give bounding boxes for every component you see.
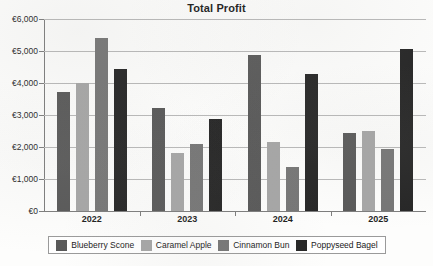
chart-title: Total Profit <box>0 2 433 14</box>
legend-item-blueberry-scone[interactable]: Blueberry Scone <box>56 240 134 251</box>
y-axis-tick <box>39 211 44 212</box>
legend-label: Caramel Apple <box>156 240 212 250</box>
bar <box>343 133 356 211</box>
bar <box>171 153 184 211</box>
y-axis-tick-labels: €0€1,000€2,000€3,000€4,000€5,000€6,000 <box>0 19 38 211</box>
y-axis-tick <box>39 83 44 84</box>
legend-swatch-icon <box>141 240 152 251</box>
y-axis-tick <box>39 179 44 180</box>
y-axis-tick-label: €5,000 <box>12 46 38 56</box>
bars-layer <box>44 19 426 211</box>
y-axis-tick-label: €3,000 <box>12 110 38 120</box>
x-axis-tick-label: 2022 <box>82 214 102 224</box>
y-axis-tick-label: €0 <box>29 206 38 216</box>
y-axis-tick <box>39 51 44 52</box>
y-axis-tick-label: €2,000 <box>12 142 38 152</box>
y-axis-tick <box>39 147 44 148</box>
bar <box>267 142 280 211</box>
legend-swatch-icon <box>218 240 229 251</box>
y-axis-tick <box>39 115 44 116</box>
plot-area <box>44 19 426 211</box>
legend-item-poppyseed-bagel[interactable]: Poppyseed Bagel <box>296 240 378 251</box>
bar <box>57 92 70 211</box>
bar <box>381 149 394 211</box>
bar-chart: Total Profit €0€1,000€2,000€3,000€4,000€… <box>0 0 433 266</box>
x-axis-tick-label: 2023 <box>177 214 197 224</box>
bar <box>209 119 222 211</box>
legend-label: Poppyseed Bagel <box>311 240 378 250</box>
legend-label: Blueberry Scone <box>71 240 134 250</box>
x-axis-tick-label: 2025 <box>368 214 388 224</box>
y-axis-tick-label: €4,000 <box>12 78 38 88</box>
bar <box>305 74 318 211</box>
x-axis-tick-labels: 2022202320242025 <box>44 214 426 228</box>
bar <box>286 167 299 211</box>
legend-item-cinnamon-bun[interactable]: Cinnamon Bun <box>218 240 289 251</box>
bar <box>152 108 165 211</box>
bar <box>76 83 89 211</box>
legend-swatch-icon <box>56 240 67 251</box>
y-axis-tick <box>39 19 44 20</box>
bar <box>95 38 108 211</box>
bar <box>248 55 261 211</box>
bar <box>400 49 413 211</box>
bar <box>190 144 203 211</box>
legend-label: Cinnamon Bun <box>233 240 289 250</box>
y-axis-tick-label: €6,000 <box>12 14 38 24</box>
y-axis-tick-label: €1,000 <box>12 174 38 184</box>
legend-swatch-icon <box>296 240 307 251</box>
x-axis-tick-label: 2024 <box>273 214 293 224</box>
bar <box>362 131 375 211</box>
chart-legend: Blueberry SconeCaramel AppleCinnamon Bun… <box>48 236 386 254</box>
legend-item-caramel-apple[interactable]: Caramel Apple <box>141 240 212 251</box>
bar <box>114 69 127 211</box>
